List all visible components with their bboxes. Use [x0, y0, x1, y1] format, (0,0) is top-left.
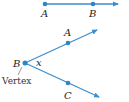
vertex-point-b: [23, 61, 28, 66]
label-a-top: A: [40, 8, 48, 19]
label-b-vertex: B: [12, 58, 20, 69]
label-a: A: [63, 27, 71, 38]
ray-bc-line: [25, 63, 99, 97]
angle-abc: B A C x Vertex: [1, 27, 99, 101]
point-b-top: [91, 2, 96, 7]
vertex-caption: Vertex: [1, 76, 31, 86]
label-c: C: [64, 90, 72, 101]
point-a: [66, 41, 71, 46]
angle-label-x: x: [36, 57, 42, 68]
geometry-diagram: A B B A C x Vertex: [0, 0, 129, 102]
ray-ab: A B: [40, 2, 118, 19]
point-a-top: [43, 2, 48, 7]
label-b-top: B: [88, 8, 96, 19]
point-c: [66, 81, 71, 86]
